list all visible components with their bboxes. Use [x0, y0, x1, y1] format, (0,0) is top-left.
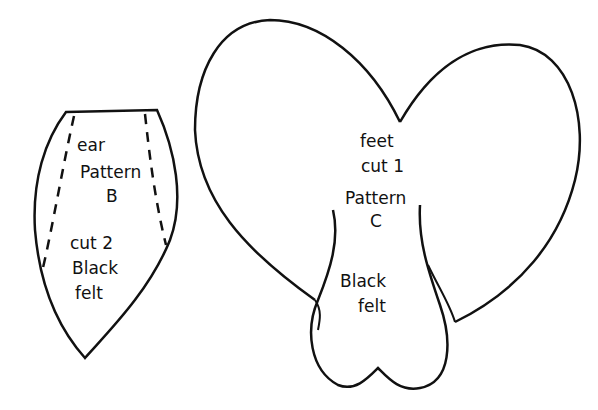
feet-label-material-color: Black — [340, 273, 386, 290]
ear-label-name: ear — [77, 137, 105, 154]
ear-right-seam-line — [145, 114, 166, 245]
pattern-drawing — [0, 0, 598, 410]
feet-label-material: felt — [358, 298, 386, 315]
ear-label-letter: B — [106, 188, 118, 205]
ear-label-material: felt — [75, 285, 103, 302]
feet-label-pattern: Pattern — [345, 190, 406, 207]
feet-label-letter: C — [370, 213, 382, 230]
feet-label-name: feet — [360, 133, 394, 150]
ear-label-cut-count: cut 2 — [70, 235, 113, 252]
ear-label-pattern: Pattern — [80, 164, 141, 181]
pattern-sheet: ear Pattern B cut 2 Black felt feet cut … — [0, 0, 598, 410]
ear-label-material-color: Black — [72, 260, 118, 277]
feet-label-cut-count: cut 1 — [361, 158, 404, 175]
